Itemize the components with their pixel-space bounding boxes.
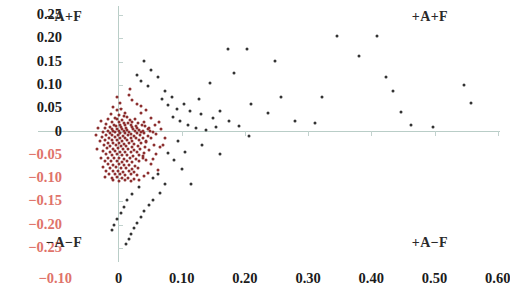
data-point xyxy=(155,133,158,136)
data-point xyxy=(153,123,156,126)
data-point xyxy=(115,96,118,99)
data-point xyxy=(218,109,221,112)
data-point xyxy=(118,156,121,159)
data-point xyxy=(279,95,282,98)
data-point xyxy=(120,212,123,215)
data-point xyxy=(219,152,222,155)
data-point xyxy=(142,175,145,178)
data-point xyxy=(104,176,107,179)
data-point xyxy=(233,71,236,74)
data-point xyxy=(209,82,212,85)
data-point xyxy=(152,157,155,160)
data-point xyxy=(161,143,164,146)
data-point xyxy=(130,232,133,235)
data-point xyxy=(140,80,143,83)
data-point xyxy=(247,135,250,138)
data-point xyxy=(166,151,169,154)
data-point xyxy=(321,96,324,99)
data-point xyxy=(128,87,131,90)
data-point xyxy=(133,117,136,120)
data-point xyxy=(101,150,104,153)
data-point xyxy=(150,68,153,71)
data-point xyxy=(176,107,179,110)
data-point xyxy=(163,90,166,93)
data-point xyxy=(140,104,143,107)
data-point xyxy=(245,47,248,50)
data-point xyxy=(127,142,130,145)
data-point xyxy=(215,125,218,128)
data-point xyxy=(118,113,121,116)
data-point xyxy=(108,172,111,175)
data-point xyxy=(151,177,154,180)
data-point xyxy=(138,178,141,181)
data-point xyxy=(146,85,149,88)
data-point xyxy=(462,83,465,86)
data-point xyxy=(392,90,395,93)
data-point xyxy=(293,119,296,122)
data-point xyxy=(97,126,100,129)
data-point xyxy=(200,143,203,146)
data-point xyxy=(205,128,208,131)
data-point xyxy=(119,101,122,104)
data-point xyxy=(94,134,97,137)
data-point xyxy=(211,116,214,119)
data-point xyxy=(171,116,174,119)
data-point xyxy=(143,121,146,124)
data-point xyxy=(159,191,162,194)
data-point xyxy=(103,159,106,162)
data-point xyxy=(116,218,119,221)
data-point xyxy=(98,139,101,142)
data-point xyxy=(144,145,147,148)
data-point xyxy=(132,148,135,151)
data-point xyxy=(183,102,186,105)
data-point xyxy=(135,221,138,224)
data-point xyxy=(157,121,160,124)
data-point xyxy=(146,171,149,174)
data-point xyxy=(149,137,152,140)
data-point xyxy=(184,151,187,154)
data-point xyxy=(431,125,434,128)
data-point xyxy=(137,160,140,163)
data-point xyxy=(161,97,164,100)
data-point xyxy=(138,134,141,137)
data-point xyxy=(250,102,253,105)
data-point xyxy=(138,147,141,150)
data-point xyxy=(143,59,146,62)
data-point xyxy=(131,98,134,101)
data-point xyxy=(470,101,473,104)
data-point xyxy=(137,166,140,169)
data-point xyxy=(188,109,191,112)
data-point xyxy=(129,180,132,183)
data-point xyxy=(273,59,276,62)
data-point xyxy=(100,120,103,123)
data-point xyxy=(132,177,135,180)
data-point xyxy=(152,144,155,147)
data-point xyxy=(118,179,121,182)
data-point xyxy=(135,174,138,177)
data-point xyxy=(131,192,134,195)
data-point xyxy=(187,123,190,126)
data-point xyxy=(151,131,154,134)
data-point xyxy=(335,34,338,37)
data-point xyxy=(116,176,119,179)
data-point xyxy=(142,129,145,132)
data-point xyxy=(157,173,160,176)
data-point xyxy=(123,179,126,182)
data-point xyxy=(113,223,116,226)
data-point xyxy=(155,152,158,155)
data-point xyxy=(96,148,99,151)
data-point xyxy=(190,182,193,185)
data-point xyxy=(176,139,179,142)
data-point xyxy=(173,159,176,162)
data-point xyxy=(410,124,413,127)
data-point xyxy=(126,199,129,202)
data-point xyxy=(99,156,102,159)
data-point xyxy=(147,126,150,129)
data-point xyxy=(126,147,129,150)
data-point xyxy=(156,168,159,171)
data-point xyxy=(199,112,202,115)
data-point xyxy=(145,109,148,112)
data-point xyxy=(181,167,184,170)
data-point xyxy=(125,242,128,245)
data-point xyxy=(159,146,162,149)
